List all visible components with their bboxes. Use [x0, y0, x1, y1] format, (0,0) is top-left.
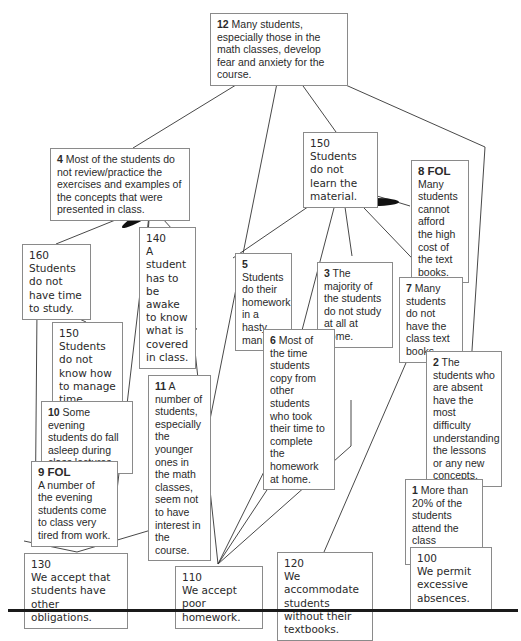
node-code: 140: [146, 232, 189, 245]
node-text: We accept that students have other oblig…: [31, 571, 110, 623]
node-number: 9 FOL: [38, 466, 111, 479]
node-code: 110: [182, 571, 256, 584]
node-text: Many students do not have the class text…: [406, 282, 450, 357]
node-code: 120: [284, 557, 366, 570]
node-code: 150: [59, 327, 116, 340]
node-text: Many students, especially those in the m…: [217, 18, 324, 80]
node-text: Students do not learn the material.: [310, 150, 357, 202]
node-text: Many students cannot afford the high cos…: [418, 178, 458, 278]
node-160: 160 Students do not have time to study.: [22, 244, 91, 320]
node-130: 130 We accept that students have other o…: [24, 553, 128, 629]
node-number: 4: [57, 153, 63, 165]
node-number: 1: [412, 484, 418, 496]
node-text: A number of the evening students come to…: [38, 479, 110, 541]
node-140: 140 A student has to be awake to know wh…: [139, 227, 196, 369]
node-text: We accept poor homework.: [182, 584, 241, 622]
node-120: 120 We accommodate students without thei…: [277, 552, 373, 641]
node-9-fol: 9 FOL A number of the evening students c…: [31, 461, 118, 547]
node-code: 130: [31, 558, 121, 571]
node-code: 150: [310, 137, 371, 150]
node-number: 10: [48, 406, 60, 418]
node-text: Most of the students do not review/pract…: [57, 153, 181, 215]
node-100: 100 We permit excessive absences.: [410, 547, 492, 610]
node-number: 5: [242, 258, 248, 270]
node-110: 110 We accept poor homework.: [175, 566, 263, 629]
node-text: We permit excessive absences.: [417, 565, 471, 603]
node-text: A student has to be awake to know what i…: [146, 245, 188, 363]
node-text: A number of students, especially the you…: [155, 380, 202, 556]
node-4: 4 Most of the students do not review/pra…: [50, 148, 190, 221]
node-6: 6 Most of the time students copy from ot…: [263, 329, 335, 490]
node-number: 12: [217, 18, 229, 30]
node-text: Most of the time students copy from othe…: [270, 334, 325, 485]
bottom-divider: [8, 609, 518, 612]
node-8-fol: 8 FOL Many students cannot afford the hi…: [411, 160, 469, 283]
node-code: 160: [29, 249, 84, 262]
node-number: 8 FOL: [418, 165, 462, 178]
node-number: 6: [270, 334, 276, 346]
node-text: Students do not know how to manage time.: [59, 340, 116, 405]
node-11: 11 A number of students, especially the …: [148, 375, 211, 561]
node-150-time: 150 Students do not know how to manage t…: [52, 322, 123, 411]
node-number: 3: [324, 267, 330, 279]
node-text: The students who are absent have the mos…: [433, 356, 500, 481]
node-12: 12 Many students, especially those in th…: [210, 13, 348, 86]
node-number: 7: [406, 282, 412, 294]
node-number: 11: [155, 380, 166, 392]
node-2: 2 The students who are absent have the m…: [426, 351, 502, 487]
node-150-learn: 150 Students do not learn the material.: [303, 132, 378, 208]
node-7: 7 Many students do not have the class te…: [399, 277, 463, 363]
node-text: Students do not have time to study.: [29, 262, 82, 314]
node-number: 2: [433, 356, 439, 368]
node-text: We accommodate students without their te…: [284, 570, 359, 635]
node-code: 100: [417, 552, 485, 565]
